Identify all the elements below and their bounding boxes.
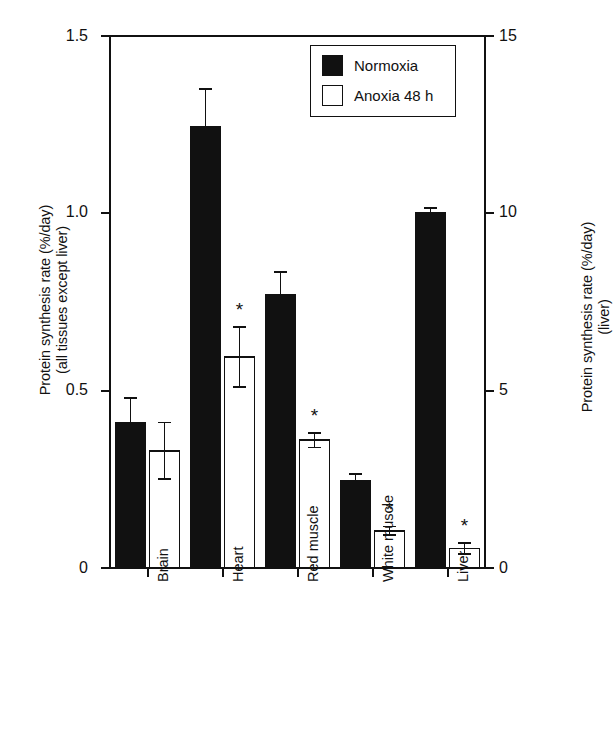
right-axis-tick-label-0: 0 [499,559,559,577]
left-axis-title-line2: (all tissues except liver) [54,170,71,430]
x-axis-label-liver: Liver [455,551,471,582]
bar-brain-normoxia [116,423,146,568]
bar-red-muscle-normoxia [266,295,296,568]
right-axis-tick-label-5: 5 [499,381,559,399]
bar-heart-anoxia-48-h [225,357,255,568]
left-axis-title-line1: Protein synthesis rate (%/day) [37,205,53,395]
left-axis-tick-label-1_5: 1.5 [30,27,88,45]
bar-heart-normoxia [191,126,221,568]
x-axis-label-white-muscle: White muscle [380,495,396,582]
legend-label-normoxia: Normoxia [354,57,418,74]
right-axis-title-line2: (liver) [596,187,613,447]
right-axis-tick-label-10: 10 [499,203,559,221]
significance-asterisk: * [236,299,244,320]
bar-white-muscle-normoxia [341,481,371,568]
bar-group [116,126,480,568]
bar-liver-normoxia [416,213,446,568]
open-square-icon [322,85,343,106]
legend-item-anoxia: Anoxia 48 h [322,84,433,106]
left-axis-tick-label-0: 0 [30,559,88,577]
x-axis-label-heart: Heart [230,547,246,582]
right-axis-title: Protein synthesis rate (%/day) (liver) [579,187,613,447]
filled-square-icon [322,55,343,76]
significance-asterisk: * [461,515,469,536]
x-axis-label-brain: Brain [155,548,171,582]
left-axis-title: Protein synthesis rate (%/day) (all tiss… [37,170,71,430]
legend: Normoxia Anoxia 48 h [310,45,456,117]
x-axis-label-red-muscle: Red muscle [305,505,321,582]
legend-item-normoxia: Normoxia [322,54,418,76]
legend-label-anoxia: Anoxia 48 h [354,87,433,104]
right-axis-title-line1: Protein synthesis rate (%/day) [579,222,595,412]
significance-asterisk: * [311,405,319,426]
right-axis-tick-label-15: 15 [499,27,559,45]
